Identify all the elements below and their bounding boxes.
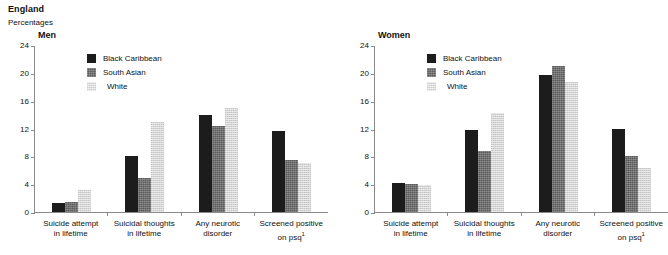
x-axis-label: Any neuroticdisorder (181, 219, 255, 243)
x-axis-label: Suicidal thoughtsin lifetime (448, 219, 522, 243)
x-axis-label: Suicide attemptin lifetime (34, 219, 108, 243)
x-axis-label-line: Screened positive (596, 219, 668, 229)
bar-black-caribbean (392, 183, 405, 212)
bar-black-caribbean (52, 203, 65, 212)
x-axis-label-line: Screened positive (256, 219, 328, 229)
legend-swatch-icon (87, 68, 96, 77)
footnote-marker: 1 (302, 231, 305, 237)
plot-wrap-women: 24201612840 Black CaribbeanSouth AsianWh… (348, 46, 668, 243)
chart-panel-women: Women 24201612840 Black CaribbeanSouth A… (348, 30, 668, 255)
y-tick-label: 16 (9, 98, 29, 106)
legend-label: White (447, 82, 467, 91)
legend-item: Black Caribbean (427, 52, 502, 64)
legend-label: South Asian (443, 68, 486, 77)
x-axis-label-line: in lifetime (109, 229, 181, 239)
legend-women: Black CaribbeanSouth AsianWhite (427, 52, 502, 94)
x-axis-label: Screened positiveon psq1 (595, 219, 668, 243)
x-axis-label-line: disorder (182, 229, 254, 239)
x-tick (595, 212, 668, 216)
footnote-marker: 1 (642, 231, 645, 237)
x-ticks-men (35, 212, 328, 216)
bar-south-asian (285, 160, 298, 212)
x-axis-label-line: in lifetime (35, 229, 107, 239)
x-axis-label-line: Suicide attempt (35, 219, 107, 229)
bar-white (565, 82, 578, 212)
x-axis-label-line: Any neurotic (522, 219, 594, 229)
x-axis-label: Suicide attemptin lifetime (374, 219, 448, 243)
legend-label: White (107, 82, 127, 91)
bar-white (638, 168, 651, 212)
legend-swatch-icon (427, 68, 436, 77)
x-tick (182, 212, 255, 216)
legend-label: Black Caribbean (443, 54, 502, 63)
bar-south-asian (552, 66, 565, 212)
legend-swatch-icon (87, 54, 96, 63)
y-tick-label: 24 (349, 42, 369, 50)
x-axis-label-line: Suicide attempt (375, 219, 447, 229)
y-tick-label: 16 (349, 98, 369, 106)
legend-item: South Asian (427, 66, 502, 78)
y-tick-label: 12 (9, 126, 29, 134)
bar-white (225, 108, 238, 212)
country-label: England (8, 4, 53, 14)
bar-black-caribbean (125, 156, 138, 212)
legend-item: White (87, 80, 162, 92)
bar-south-asian (405, 184, 418, 212)
bar-white (418, 185, 431, 212)
x-axis-label-line: Any neurotic (182, 219, 254, 229)
bar-south-asian (478, 151, 491, 212)
bar-group (255, 46, 328, 212)
y-tick-label: 4 (349, 181, 369, 189)
legend-item: South Asian (87, 66, 162, 78)
y-tick-label: 12 (349, 126, 369, 134)
y-tick-label: 20 (9, 70, 29, 78)
bar-black-caribbean (465, 130, 478, 212)
bar-groups-women (375, 46, 668, 212)
x-axis-label-line: Suicidal thoughts (109, 219, 181, 229)
y-tick-label: 4 (9, 181, 29, 189)
y-tick-label: 8 (9, 153, 29, 161)
bar-groups-men (35, 46, 328, 212)
bar-black-caribbean (199, 115, 212, 212)
x-axis-label: Any neuroticdisorder (521, 219, 595, 243)
legend-item: Black Caribbean (87, 52, 162, 64)
x-tick (108, 212, 181, 216)
legend-label: Black Caribbean (103, 54, 162, 63)
plot-area-men: 24201612840 Black CaribbeanSouth AsianWh… (34, 46, 328, 213)
plot-wrap-men: 24201612840 Black CaribbeanSouth AsianWh… (8, 46, 328, 243)
x-axis-label-line: disorder (522, 229, 594, 239)
x-axis-label: Screened positiveon psq1 (255, 219, 329, 243)
legend-item: White (427, 80, 502, 92)
x-tick (375, 212, 448, 216)
units-label: Percentages (8, 18, 53, 27)
panel-title-women: Women (378, 30, 668, 42)
x-tick (255, 212, 328, 216)
x-labels-men: Suicide attemptin lifetimeSuicidal thoug… (34, 219, 328, 243)
x-tick (448, 212, 521, 216)
legend-label: South Asian (103, 68, 146, 77)
x-ticks-women (375, 212, 668, 216)
bar-white (491, 113, 504, 212)
legend-men: Black CaribbeanSouth AsianWhite (87, 52, 162, 94)
bar-white (298, 163, 311, 212)
legend-swatch-icon (87, 82, 96, 91)
bar-black-caribbean (612, 129, 625, 213)
bar-south-asian (65, 202, 78, 212)
x-axis-label-line: in lifetime (449, 229, 521, 239)
x-tick (522, 212, 595, 216)
x-axis-label-line: on psq1 (596, 229, 668, 243)
bar-south-asian (212, 126, 225, 212)
bar-black-caribbean (272, 131, 285, 212)
y-tick-label: 24 (9, 42, 29, 50)
panel-title-men: Men (38, 30, 328, 42)
chart-panel-men: Men 24201612840 Black CaribbeanSouth Asi… (8, 30, 328, 255)
y-tick-label: 0 (349, 209, 369, 217)
chart-header: England Percentages (8, 4, 53, 27)
bar-group (182, 46, 255, 212)
x-axis-label-line: on psq1 (256, 229, 328, 243)
bar-south-asian (138, 178, 151, 212)
bar-group (595, 46, 668, 212)
x-axis-label-line: in lifetime (375, 229, 447, 239)
x-tick (35, 212, 108, 216)
y-tick-label: 8 (349, 153, 369, 161)
